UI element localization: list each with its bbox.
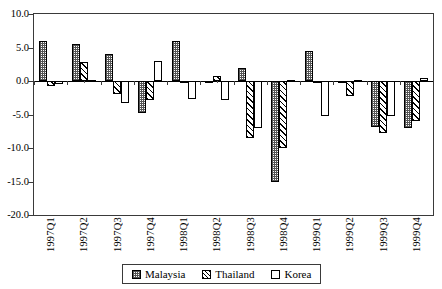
x-tick-label: 1997Q1 xyxy=(45,217,56,252)
bar-thailand-1999Q3 xyxy=(379,81,387,133)
y-tick-label: -5.0 xyxy=(12,110,29,120)
bar-thailand-1998Q3 xyxy=(246,81,254,138)
y-tick-mark xyxy=(28,182,33,183)
bar-malaysia-1998Q3 xyxy=(238,68,246,81)
y-tick-label: -10.0 xyxy=(7,143,29,153)
bar-korea-1999Q2 xyxy=(354,80,362,82)
legend-swatch-malaysia-icon xyxy=(132,270,141,279)
bar-thailand-1997Q4 xyxy=(146,81,154,100)
legend-label-thailand: Thailand xyxy=(215,268,254,280)
bar-thailand-1997Q2 xyxy=(80,62,88,81)
y-tick-mark xyxy=(28,148,33,149)
x-tick-label: 1998Q3 xyxy=(245,217,256,252)
bar-korea-1998Q4 xyxy=(287,80,295,82)
bar-malaysia-1999Q4 xyxy=(404,81,412,128)
x-tick-label: 1997Q3 xyxy=(112,217,123,252)
x-tick-label: 1998Q1 xyxy=(178,217,189,252)
bar-malaysia-1997Q3 xyxy=(105,54,113,81)
y-tick-mark xyxy=(28,48,33,49)
y-tick-mark xyxy=(28,115,33,116)
bar-korea-1999Q3 xyxy=(387,81,395,116)
x-tick-label: 1999Q2 xyxy=(344,217,355,252)
bar-korea-1998Q2 xyxy=(221,81,229,100)
legend-item-thailand: Thailand xyxy=(202,268,254,280)
bar-korea-1997Q3 xyxy=(121,81,129,103)
chart-legend: Malaysia Thailand Korea xyxy=(122,264,321,284)
bar-korea-1998Q3 xyxy=(254,81,262,128)
legend-item-malaysia: Malaysia xyxy=(132,268,185,280)
bar-malaysia-1998Q1 xyxy=(172,41,180,81)
bar-thailand-1999Q4 xyxy=(412,81,420,121)
x-tick-mark xyxy=(433,81,434,85)
y-tick-label: 10.0 xyxy=(11,9,29,19)
bar-malaysia-1998Q4 xyxy=(271,81,279,182)
bar-malaysia-1999Q2 xyxy=(338,81,346,83)
bar-malaysia-1999Q1 xyxy=(305,51,313,81)
legend-item-korea: Korea xyxy=(271,268,311,280)
x-tick-label: 1999Q4 xyxy=(411,217,422,252)
bar-malaysia-1998Q2 xyxy=(205,81,213,83)
bar-thailand-1998Q1 xyxy=(180,81,188,83)
y-tick-label: -20.0 xyxy=(7,210,29,220)
legend-swatch-thailand-icon xyxy=(202,270,211,279)
y-tick-label: -15.0 xyxy=(7,177,29,187)
bar-korea-1999Q4 xyxy=(420,78,428,81)
x-tick-label: 1998Q4 xyxy=(278,217,289,252)
legend-label-korea: Korea xyxy=(284,268,311,280)
bar-korea-1999Q1 xyxy=(321,81,329,116)
bar-thailand-1998Q4 xyxy=(279,81,287,148)
bar-series-group xyxy=(34,14,433,215)
x-tick-label: 1998Q2 xyxy=(211,217,222,252)
bar-malaysia-1997Q4 xyxy=(138,81,146,113)
x-axis-labels: 1997Q11997Q21997Q31997Q41998Q11998Q21998… xyxy=(34,217,433,269)
bar-malaysia-1997Q2 xyxy=(72,44,80,81)
x-tick-label: 1997Q4 xyxy=(145,217,156,252)
legend-swatch-korea-icon xyxy=(271,270,280,279)
x-tick-label: 1997Q2 xyxy=(78,217,89,252)
bar-thailand-1999Q2 xyxy=(346,81,354,96)
y-axis-labels: 10.05.00.0-5.0-10.0-15.0-20.0 xyxy=(0,0,31,289)
bar-thailand-1997Q3 xyxy=(113,81,121,94)
x-tick-label: 1999Q3 xyxy=(378,217,389,252)
bar-thailand-1998Q2 xyxy=(213,76,221,81)
y-tick-mark xyxy=(28,14,33,15)
bar-korea-1998Q1 xyxy=(188,81,196,99)
bar-thailand-1999Q1 xyxy=(313,81,321,83)
bar-chart: 10.05.00.0-5.0-10.0-15.0-20.0 1997Q11997… xyxy=(0,0,442,289)
bar-korea-1997Q2 xyxy=(88,80,96,82)
bar-malaysia-1997Q1 xyxy=(39,41,47,81)
bar-malaysia-1999Q3 xyxy=(371,81,379,127)
legend-label-malaysia: Malaysia xyxy=(145,268,185,280)
y-tick-mark xyxy=(28,81,33,82)
bar-thailand-1997Q1 xyxy=(47,81,55,86)
x-tick-label: 1999Q1 xyxy=(311,217,322,252)
bar-korea-1997Q4 xyxy=(154,61,162,81)
y-tick-mark xyxy=(28,215,33,216)
bar-korea-1997Q1 xyxy=(55,81,63,84)
